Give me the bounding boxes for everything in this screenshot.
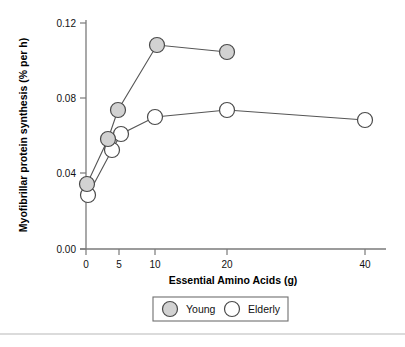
data-point-young-4 xyxy=(220,45,235,60)
series-lines xyxy=(87,45,365,195)
x-tick-marks xyxy=(86,249,365,255)
x-tick-label-3: 20 xyxy=(221,259,233,270)
x-axis-title: Essential Amino Acids (g) xyxy=(169,274,298,286)
data-point-elderly-3 xyxy=(148,110,163,125)
legend-label-elderly: Elderly xyxy=(248,303,281,315)
y-axis-title: Myofibrillar protein synthesis (% per h) xyxy=(17,38,29,232)
data-point-young-0 xyxy=(80,177,95,192)
data-point-elderly-4 xyxy=(220,103,235,118)
data-point-young-3 xyxy=(150,38,165,53)
data-point-elderly-5 xyxy=(358,113,373,128)
y-tick-labels: 0.12 0.08 0.04 0.00 xyxy=(57,18,77,255)
legend-label-young: Young xyxy=(186,303,216,315)
x-tick-label-4: 40 xyxy=(359,259,371,270)
x-tick-label-2: 10 xyxy=(149,259,161,270)
y-tick-label-1: 0.04 xyxy=(57,168,77,179)
y-tick-label-3: 0.12 xyxy=(57,18,77,29)
legend-marker-elderly-icon xyxy=(225,302,240,317)
y-tick-label-2: 0.08 xyxy=(57,93,77,104)
x-tick-label-1: 5 xyxy=(116,259,122,270)
x-tick-labels: 0 5 10 20 40 xyxy=(83,259,371,270)
y-tick-label-0: 0.00 xyxy=(57,244,77,255)
chart-canvas: 0.12 0.08 0.04 0.00 0 5 10 20 40 Essenti… xyxy=(0,0,405,347)
series-line-elderly xyxy=(88,110,365,195)
legend-marker-young-icon xyxy=(163,302,178,317)
x-tick-label-0: 0 xyxy=(83,259,89,270)
data-point-young-1 xyxy=(101,132,116,147)
chart-legend: Young Elderly xyxy=(153,297,288,321)
y-tick-marks xyxy=(80,23,86,249)
data-point-young-2 xyxy=(111,103,126,118)
chart-figure: 0.12 0.08 0.04 0.00 0 5 10 20 40 Essenti… xyxy=(0,0,405,347)
